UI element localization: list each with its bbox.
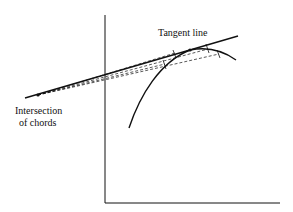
intersection-label-line1: Intersection	[15, 105, 62, 117]
intersection-point	[36, 93, 39, 96]
tangent-point	[188, 48, 191, 51]
curve	[129, 49, 236, 128]
chord-3	[38, 49, 208, 95]
tangent-label: Tangent line	[158, 27, 208, 39]
intersection-label-line2: of chords	[19, 117, 57, 129]
chord-1	[38, 53, 175, 95]
chord-4	[38, 54, 219, 95]
